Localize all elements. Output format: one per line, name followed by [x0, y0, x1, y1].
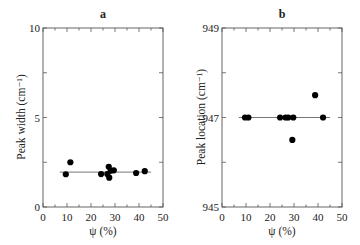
panel-b-xtick-label: 0 [219, 211, 225, 223]
panel-b-xtick-label: 30 [289, 211, 301, 223]
panel-a-xtick-label: 40 [134, 211, 146, 223]
panel-b-data-point [289, 137, 295, 143]
panel-a-frame [43, 28, 163, 207]
panel-a-xtick-label: 50 [158, 211, 170, 223]
panel-b-xtick-label: 20 [265, 211, 277, 223]
panel-a-ytick-label: 5 [35, 112, 41, 124]
panel-a-xlabel: ψ (%) [89, 225, 116, 238]
panel-a-xtick-label: 20 [86, 211, 98, 223]
panel-b-data-point [290, 114, 296, 120]
panel-b-data-point [245, 114, 251, 120]
panel-b-data-point [312, 92, 318, 98]
panel-a-xtick-label: 0 [40, 211, 46, 223]
panel-b-xtick-label: 50 [337, 211, 349, 223]
panel-b: b ψ (%) Peak location (cm⁻¹) 01020304050… [195, 7, 348, 238]
figure: a ψ (%) Peak width (cm⁻¹) 01020304050051… [0, 0, 360, 245]
panel-a-data-point [142, 168, 148, 174]
panel-b-ytick-label: 949 [203, 22, 220, 34]
panel-a-data-point [106, 175, 112, 181]
panel-b-data-point [277, 114, 283, 120]
panel-a-data-point [67, 159, 73, 165]
panel-a-xtick-label: 30 [110, 211, 122, 223]
panel-a-data-point [111, 167, 117, 173]
panel-a-data-point [133, 170, 139, 176]
panel-b-ytick-label: 947 [203, 112, 220, 124]
panel-a-title: a [100, 7, 106, 21]
panel-a-ylabel: Peak width (cm⁻¹) [15, 74, 28, 160]
panel-a-ytick-label: 0 [35, 201, 41, 213]
panel-b-data-point [320, 114, 326, 120]
panel-b-ytick-label: 945 [203, 201, 220, 213]
panel-a: a ψ (%) Peak width (cm⁻¹) 01020304050051… [15, 7, 169, 238]
panel-b-title: b [279, 7, 286, 21]
panel-b-xtick-label: 10 [241, 211, 253, 223]
panel-a-data-point [98, 171, 104, 177]
panel-a-data-point [63, 171, 69, 177]
panel-b-xtick-label: 40 [313, 211, 325, 223]
panel-b-xlabel: ψ (%) [268, 225, 295, 238]
panel-a-ytick-label: 10 [29, 22, 41, 34]
panel-a-xtick-label: 10 [62, 211, 74, 223]
